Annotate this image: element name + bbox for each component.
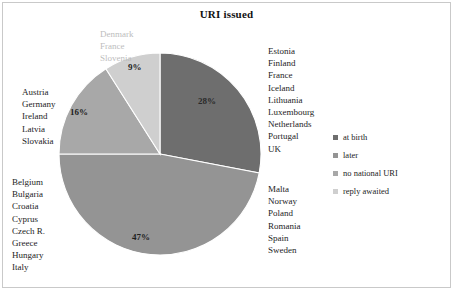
- pie-graphic: [58, 52, 262, 256]
- country-name: Ireland: [22, 110, 56, 122]
- country-name: Czech R.: [12, 225, 45, 237]
- country-name: Lithuania: [268, 94, 314, 106]
- country-name: Hungary: [12, 249, 45, 261]
- country-name: Bulgaria: [12, 188, 45, 200]
- country-name: Croatia: [12, 200, 45, 212]
- country-name: Latvia: [22, 123, 56, 135]
- legend-item[interactable]: no national URI: [333, 164, 448, 182]
- country-name: Slovenia: [100, 52, 134, 64]
- slice-value-label-later: 47%: [132, 232, 150, 242]
- pie-slice-at-birth[interactable]: [160, 53, 261, 173]
- legend-item[interactable]: at birth: [333, 128, 448, 146]
- legend-item-label: no national URI: [343, 169, 398, 178]
- legend-swatch-icon: [333, 189, 338, 194]
- country-list-later-left: BelgiumBulgariaCroatiaCyprusCzech R.Gree…: [12, 176, 45, 274]
- country-name: Romania: [268, 220, 301, 232]
- country-name: Netherlands: [268, 118, 314, 130]
- country-list-reply-awaited: DenmarkFranceSlovenia: [100, 28, 134, 65]
- country-name: Cyprus: [12, 213, 45, 225]
- slice-value-label-no-national-uri: 16%: [70, 107, 88, 117]
- slice-value-label-at-birth: 28%: [198, 96, 216, 106]
- country-name: Sweden: [268, 244, 301, 256]
- country-name: Malta: [268, 183, 301, 195]
- legend-item-label: reply awaited: [343, 187, 389, 196]
- country-list-at-birth: EstoniaFinlandFranceIcelandLithuaniaLuxe…: [268, 45, 314, 155]
- country-name: Luxembourg: [268, 106, 314, 118]
- country-name: France: [100, 40, 134, 52]
- country-name: Estonia: [268, 45, 314, 57]
- pie-svg: [58, 52, 262, 256]
- country-name: Spain: [268, 232, 301, 244]
- country-name: Portugal: [268, 130, 314, 142]
- country-name: Norway: [268, 195, 301, 207]
- country-name: Belgium: [12, 176, 45, 188]
- country-list-later-right: MaltaNorwayPolandRomaniaSpainSweden: [268, 183, 301, 256]
- pie-chart-figure: URI issued 28% 47% 16% 9% DenmarkFranceS…: [0, 0, 453, 290]
- legend-item-label: at birth: [343, 133, 367, 142]
- country-name: France: [268, 69, 314, 81]
- country-name: Slovakia: [22, 135, 56, 147]
- legend-swatch-icon: [333, 135, 338, 140]
- legend-item[interactable]: later: [333, 146, 448, 164]
- legend-swatch-icon: [333, 153, 338, 158]
- chart-title: URI issued: [0, 8, 453, 20]
- country-name: UK: [268, 143, 314, 155]
- country-list-no-national-uri: AustriaGermanyIrelandLatviaSlovakia: [22, 86, 56, 147]
- country-name: Iceland: [268, 82, 314, 94]
- country-name: Greece: [12, 237, 45, 249]
- country-name: Denmark: [100, 28, 134, 40]
- legend-swatch-icon: [333, 171, 338, 176]
- legend-item[interactable]: reply awaited: [333, 182, 448, 200]
- country-name: Italy: [12, 261, 45, 273]
- country-name: Finland: [268, 57, 314, 69]
- country-name: Austria: [22, 86, 56, 98]
- country-name: Germany: [22, 98, 56, 110]
- pie-slice-later[interactable]: [59, 154, 259, 255]
- chart-legend: at birthlaterno national URIreply awaite…: [333, 128, 448, 200]
- legend-item-label: later: [343, 151, 358, 160]
- country-name: Poland: [268, 207, 301, 219]
